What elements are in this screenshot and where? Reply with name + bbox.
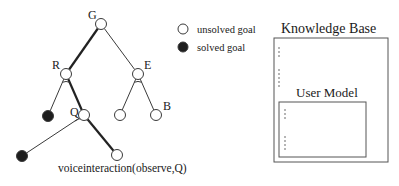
node-label-g: G [88,8,97,22]
solved-goal-node-q1 [17,151,28,162]
edge-G-E [104,28,134,69]
and-arc-E [134,81,141,82]
edge-E-B [140,79,154,110]
ellipsis-dot [284,117,285,118]
ellipsis-dot [278,69,279,70]
edge-E-E1 [122,79,136,110]
node-label-q: Q [70,105,79,119]
goal-tree-diagram: GREQB voiceinteraction(observe,Q) unsolv… [0,0,399,186]
action-caption: voiceinteraction(observe,Q) [58,162,187,175]
ellipsis-dot [278,77,279,78]
ellipsis-dot [278,81,279,82]
user-model-title: User Model [296,85,358,100]
unsolved-goal-node-q2 [112,150,123,161]
node-label-b: B [163,99,171,113]
node-label-e: E [144,58,151,72]
ellipsis-dot [278,55,279,56]
ellipsis-dot [284,148,285,149]
knowledge-base-box [274,38,388,162]
legend: unsolved goal solved goal [178,24,256,53]
and-arc-R [62,82,69,83]
node-labels: GREQB [52,8,171,119]
edge-Q-Q2 [88,119,114,151]
ellipsis-dot [278,73,279,74]
ellipsis-dot [284,140,285,141]
knowledge-base-ellipsis [278,47,279,86]
user-model-ellipsis [284,109,285,149]
ellipsis-dot [284,109,285,110]
unsolved-goal-node-q [79,110,90,121]
user-model-box [279,102,366,157]
solved-goal-icon [178,42,188,52]
legend-label-solved: solved goal [197,42,245,53]
ellipsis-dot [278,47,279,48]
knowledge-base: Knowledge Base User Model [274,21,388,162]
ellipsis-dot [278,85,279,86]
edge-G-R [69,29,98,70]
unsolved-goal-node-b [151,110,162,121]
legend-label-unsolved: unsolved goal [197,24,256,35]
edge-Q-Q1 [27,118,80,153]
ellipsis-dot [284,136,285,137]
ellipsis-dot [284,144,285,145]
knowledge-base-title: Knowledge Base [281,21,376,36]
unsolved-goal-node-r [61,69,72,80]
ellipsis-dot [284,113,285,114]
node-label-r: R [52,58,60,72]
solved-goal-node-r1 [43,111,54,122]
unsolved-goal-icon [178,24,188,34]
ellipsis-dot [278,51,279,52]
unsolved-goal-node-e1 [115,110,126,121]
unsolved-goal-node-g [96,19,107,30]
edge-R-R1 [50,79,64,111]
unsolved-goal-node-e [133,69,144,80]
tree-edges [27,28,154,153]
